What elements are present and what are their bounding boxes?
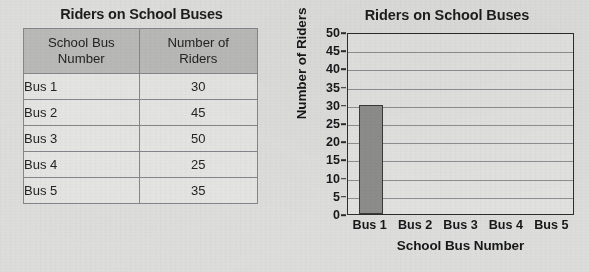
cell-bus-name: Bus 3 [24,126,140,152]
riders-table: School Bus Number Number of Riders Bus 1… [23,28,258,204]
y-axis-tick-label: 10 [310,172,340,186]
table-row: Bus 3 50 [24,126,258,152]
y-axis-tick-mark [341,141,346,143]
cell-riders-count: 45 [139,100,258,126]
x-axis-tick-label: Bus 2 [398,218,432,232]
x-axis-tick-label: Bus 5 [534,218,568,232]
column-header-line-1: Number of [140,35,258,52]
y-axis-tick-mark [341,123,346,125]
cell-bus-name: Bus 2 [24,100,140,126]
table-header-row: School Bus Number Number of Riders [24,29,258,74]
y-axis-tick-mark [341,105,346,107]
column-header-school-bus-number: School Bus Number [24,29,140,74]
gridline [348,52,573,53]
x-axis-tick-label: Bus 4 [489,218,523,232]
y-axis-tick-label: 25 [310,117,340,131]
cell-bus-name: Bus 5 [24,178,140,204]
cell-bus-name: Bus 4 [24,152,140,178]
y-axis-tick-label: 30 [310,99,340,113]
y-axis-label: Number of Riders [294,0,309,144]
cell-riders-count: 25 [139,152,258,178]
column-header-number-of-riders: Number of Riders [139,29,258,74]
y-axis-tick-mark [341,178,346,180]
cell-bus-name: Bus 1 [24,74,140,100]
y-axis-tick-label: 35 [310,81,340,95]
y-axis-tick-label: 40 [310,62,340,76]
chart-title: Riders on School Buses [305,7,589,23]
y-axis-tick-label: 50 [310,26,340,40]
x-axis-tick-label: Bus 1 [353,218,387,232]
y-axis-tick-label: 45 [310,44,340,58]
y-axis-tick-label: 5 [310,190,340,204]
table-title: Riders on School Buses [0,6,283,22]
y-axis-tick-mark [341,87,346,89]
y-axis-tick-label: 20 [310,135,340,149]
table-row: Bus 4 25 [24,152,258,178]
cell-riders-count: 35 [139,178,258,204]
column-header-line-1: School Bus [24,35,139,52]
x-axis-label: School Bus Number [347,238,574,253]
x-axis-tick-label: Bus 3 [443,218,477,232]
gridline [348,70,573,71]
table-row: Bus 2 45 [24,100,258,126]
column-header-line-2: Number [24,51,139,68]
table-row: Bus 5 35 [24,178,258,204]
table-row: Bus 1 30 [24,74,258,100]
bar-bus-1 [359,105,383,214]
y-axis-tick-label: 15 [310,153,340,167]
y-axis-tick-mark [341,32,346,34]
column-header-line-2: Riders [140,51,258,68]
cell-riders-count: 30 [139,74,258,100]
y-axis-tick-mark [341,196,346,198]
table-panel: Riders on School Buses School Bus Number… [0,0,283,272]
y-axis-tick-mark [341,214,346,216]
y-axis-tick-mark [341,69,346,71]
y-axis-tick-label: 0 [310,208,340,222]
gridline [348,89,573,90]
y-axis-tick-mark [341,50,346,52]
bar-chart-panel: Riders on School Buses Number of Riders … [283,0,589,272]
plot-area [347,33,574,215]
y-axis-tick-mark [341,160,346,162]
cell-riders-count: 50 [139,126,258,152]
